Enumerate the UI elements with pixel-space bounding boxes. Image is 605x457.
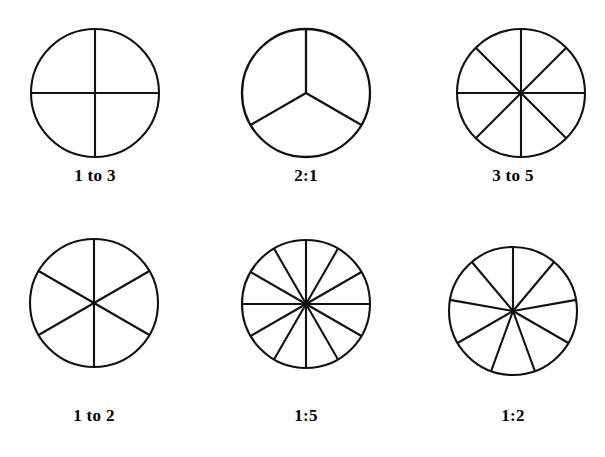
sector-spoke-4 <box>458 311 513 343</box>
sector-spoke-3 <box>450 300 513 311</box>
sector-spoke-6 <box>513 311 535 371</box>
circle-figure-5 <box>237 235 375 373</box>
sector-spoke-2 <box>476 48 521 93</box>
circle-figure-2 <box>237 24 375 162</box>
circle-figure-4 <box>25 234 163 372</box>
circle-diagram-3 <box>452 24 590 162</box>
circle-figure-1 <box>26 24 164 162</box>
sector-spoke-2 <box>39 271 94 303</box>
ratio-label-5: 1:5 <box>226 406 386 426</box>
sector-spoke-5 <box>94 303 149 335</box>
figure-canvas: 1 to 32:13 to 51 to 21:51:2 <box>0 0 605 457</box>
sector-spoke-2 <box>251 93 306 125</box>
circle-figure-6 <box>444 242 582 380</box>
ratio-label-6: 1:2 <box>433 406 593 426</box>
sector-spoke-6 <box>94 271 149 303</box>
sector-spoke-5 <box>491 311 513 371</box>
sector-spoke-8 <box>521 48 566 93</box>
sector-spoke-8 <box>513 300 576 311</box>
ratio-label-1: 1 to 3 <box>15 166 175 186</box>
sector-spoke-4 <box>476 93 521 138</box>
ratio-label-3: 3 to 5 <box>433 166 593 186</box>
ratio-label-2: 2:1 <box>226 166 386 186</box>
sector-spoke-6 <box>521 93 566 138</box>
circle-diagram-1 <box>26 24 164 162</box>
sector-spoke-3 <box>306 93 361 125</box>
circle-diagram-5 <box>237 235 375 373</box>
circle-diagram-4 <box>25 234 163 372</box>
ratio-label-4: 1 to 2 <box>14 406 174 426</box>
circle-diagram-6 <box>444 242 582 380</box>
circle-figure-3 <box>452 24 590 162</box>
sector-spoke-9 <box>513 262 554 311</box>
circle-diagram-2 <box>237 24 375 162</box>
sector-spoke-2 <box>472 262 513 311</box>
sector-spoke-3 <box>39 303 94 335</box>
sector-spoke-7 <box>513 311 568 343</box>
